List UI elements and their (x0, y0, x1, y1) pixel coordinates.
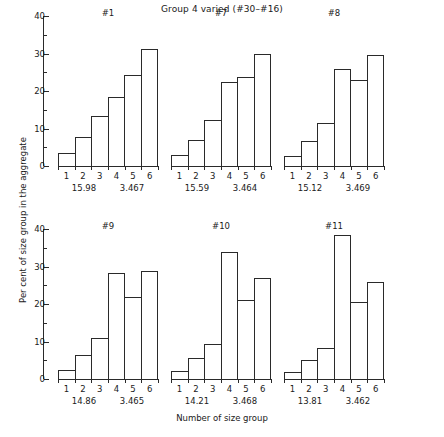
bar (367, 55, 385, 166)
x-axis-tick-labels: 123456 (284, 170, 384, 182)
x-axis-tick-label: 5 (238, 170, 255, 182)
x-axis-tick (271, 166, 272, 170)
x-axis-tick-label: 1 (284, 383, 301, 395)
y-axis-row-top: 010203040 (43, 16, 52, 166)
bar (75, 137, 93, 166)
bar (124, 75, 142, 166)
annotation-right: 3.468 (233, 395, 257, 407)
panel-annotations: 15.123.469 (284, 182, 384, 194)
x-axis-tick-label: 1 (284, 170, 301, 182)
chart-panel: #112345615.983.467 (52, 16, 164, 201)
annotation-right: 3.465 (120, 395, 144, 407)
annotation-left: 14.21 (185, 395, 209, 407)
y-axis-tick-label: 40 (34, 225, 45, 234)
bar (301, 141, 319, 166)
bar (367, 282, 385, 380)
bar (188, 358, 206, 379)
bar-series (171, 229, 271, 379)
bar (221, 252, 239, 380)
bar (141, 271, 159, 379)
panel-annotations: 14.213.468 (171, 395, 271, 407)
annotation-right: 3.464 (233, 182, 257, 194)
x-axis-tick-label: 4 (334, 170, 351, 182)
x-axis-tick-label: 2 (188, 170, 205, 182)
x-axis-tick-label: 3 (204, 383, 221, 395)
x-axis-tick (158, 379, 159, 383)
x-axis-tick-label: 4 (108, 170, 125, 182)
bar-series (284, 229, 384, 379)
chart-panel: #712345615.593.464 (165, 16, 277, 201)
bar (91, 116, 109, 166)
x-axis-tick-label: 6 (367, 383, 384, 395)
bar (141, 49, 159, 166)
bar (317, 348, 335, 379)
bar (254, 278, 272, 379)
plot-area (171, 16, 271, 167)
bar (204, 120, 222, 166)
x-axis-tick-label: 5 (125, 383, 142, 395)
x-axis-tick-labels: 123456 (171, 383, 271, 395)
x-axis-tick-label: 4 (221, 383, 238, 395)
bar-series (58, 229, 158, 379)
x-axis-tick-label: 5 (351, 383, 368, 395)
panel-row-bottom: 010203040 #912345614.863.465#1012345614.… (0, 229, 444, 414)
x-axis-tick (271, 379, 272, 383)
x-axis-tick-label: 5 (351, 170, 368, 182)
bar (350, 80, 368, 166)
x-axis-tick-label: 4 (221, 170, 238, 182)
y-axis-tick-label: 10 (34, 124, 45, 133)
x-axis-tick-label: 6 (141, 170, 158, 182)
figure: Group 4 varied (#30–#16) Per cent of siz… (0, 0, 444, 437)
panel-annotations: 15.593.464 (171, 182, 271, 194)
bar (171, 371, 189, 379)
plot-area (284, 229, 384, 380)
chart-panel: #1012345614.213.468 (165, 229, 277, 414)
x-axis-tick (384, 166, 385, 170)
plot-area (58, 16, 158, 167)
annotation-right: 3.467 (120, 182, 144, 194)
x-axis-tick-labels: 123456 (284, 383, 384, 395)
y-axis-tick-label: 20 (34, 87, 45, 96)
x-axis-tick-label: 2 (301, 170, 318, 182)
bar (284, 372, 302, 380)
x-axis-tick-label: 3 (317, 170, 334, 182)
x-axis-tick-label: 2 (75, 170, 92, 182)
y-axis-minor-tick (44, 110, 47, 111)
x-axis-tick-label: 6 (254, 383, 271, 395)
x-axis-tick-label: 3 (91, 383, 108, 395)
bar (254, 54, 272, 167)
x-axis-tick-label: 1 (58, 383, 75, 395)
bar (317, 123, 335, 167)
x-axis-tick (158, 166, 159, 170)
x-axis-tick-label: 4 (108, 383, 125, 395)
bar (237, 77, 255, 166)
panel-annotations: 13.813.462 (284, 395, 384, 407)
y-axis-minor-tick (44, 323, 47, 324)
bar (237, 300, 255, 379)
bar (124, 297, 142, 380)
annotation-right: 3.462 (346, 395, 370, 407)
x-axis-tick (384, 379, 385, 383)
panel-row-top: 010203040 #112345615.983.467#712345615.5… (0, 16, 444, 201)
annotation-right: 3.469 (346, 182, 370, 194)
bar (284, 156, 302, 166)
plot-area (171, 229, 271, 380)
y-axis-minor-tick (44, 285, 47, 286)
bar (334, 69, 352, 167)
x-axis-tick-label: 6 (367, 170, 384, 182)
x-axis-tick-label: 1 (171, 170, 188, 182)
plot-area (284, 16, 384, 167)
chart-panel: #812345615.123.469 (278, 16, 390, 201)
y-axis-tick-label: 30 (34, 262, 45, 271)
y-axis-tick-label: 20 (34, 300, 45, 309)
panel-annotations: 14.863.465 (58, 395, 158, 407)
bar-series (284, 16, 384, 166)
bar (108, 273, 126, 379)
y-axis-minor-tick (44, 35, 47, 36)
x-axis-tick-label: 2 (301, 383, 318, 395)
x-axis-tick-label: 5 (238, 383, 255, 395)
annotation-left: 15.98 (72, 182, 96, 194)
x-axis-tick-labels: 123456 (58, 383, 158, 395)
x-axis-tick-label: 3 (317, 383, 334, 395)
x-axis-tick-label: 2 (75, 383, 92, 395)
